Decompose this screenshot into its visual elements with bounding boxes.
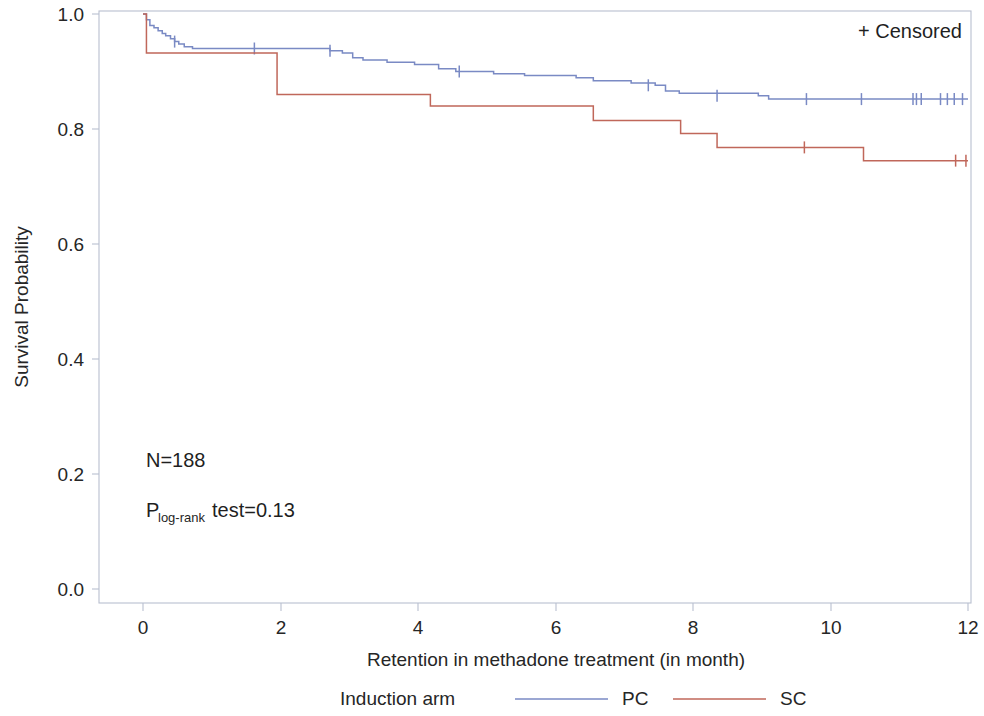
y-tick-label-4: 0.4 xyxy=(58,349,85,370)
y-tick-label-2: 0.8 xyxy=(58,119,84,140)
x-tick-label-6: 6 xyxy=(551,617,562,638)
legend-label-sc: SC xyxy=(780,688,806,709)
series-legend: Induction arm PC SC xyxy=(340,688,806,709)
x-axis-title: Retention in methadone treatment (in mon… xyxy=(367,649,745,670)
y-axis-title: Survival Probability xyxy=(11,226,32,388)
survival-curve-sc xyxy=(143,14,968,161)
x-axis-tick-labels: 0 2 4 6 8 10 12 xyxy=(138,617,979,638)
x-tick-label-8: 8 xyxy=(688,617,699,638)
kaplan-meier-figure: 1.0 0.8 0.6 0.4 0.2 0.0 0 2 4 6 8 10 12 xyxy=(0,0,984,716)
y-tick-label-6: 0.0 xyxy=(58,579,84,600)
survival-curves-group xyxy=(143,14,968,167)
survival-plot-svg: 1.0 0.8 0.6 0.4 0.2 0.0 0 2 4 6 8 10 12 xyxy=(0,0,984,716)
y-axis-tick-labels: 1.0 0.8 0.6 0.4 0.2 0.0 xyxy=(58,4,85,600)
x-tick-label-10: 10 xyxy=(820,617,841,638)
pvalue-annotation: P log-rank test=0.13 xyxy=(146,499,295,525)
x-axis-ticks xyxy=(143,603,968,611)
x-tick-label-4: 4 xyxy=(413,617,424,638)
survival-curve-pc xyxy=(143,14,968,99)
y-tick-label-5: 0.2 xyxy=(58,464,84,485)
x-tick-label-0: 0 xyxy=(138,617,149,638)
y-tick-label-3: 0.6 xyxy=(58,234,84,255)
legend-title: Induction arm xyxy=(340,688,455,709)
pvalue-subscript: log-rank xyxy=(158,510,205,525)
x-tick-label-2: 2 xyxy=(276,617,287,638)
y-axis-ticks xyxy=(92,14,99,589)
legend-label-pc: PC xyxy=(622,688,648,709)
sample-size-annotation: N=188 xyxy=(146,449,206,471)
censored-legend-label: + Censored xyxy=(858,20,962,42)
y-tick-label-1: 1.0 xyxy=(58,4,84,25)
x-tick-label-12: 12 xyxy=(957,617,978,638)
pvalue-suffix: test=0.13 xyxy=(212,499,295,521)
censor-marks-sc xyxy=(804,141,966,166)
